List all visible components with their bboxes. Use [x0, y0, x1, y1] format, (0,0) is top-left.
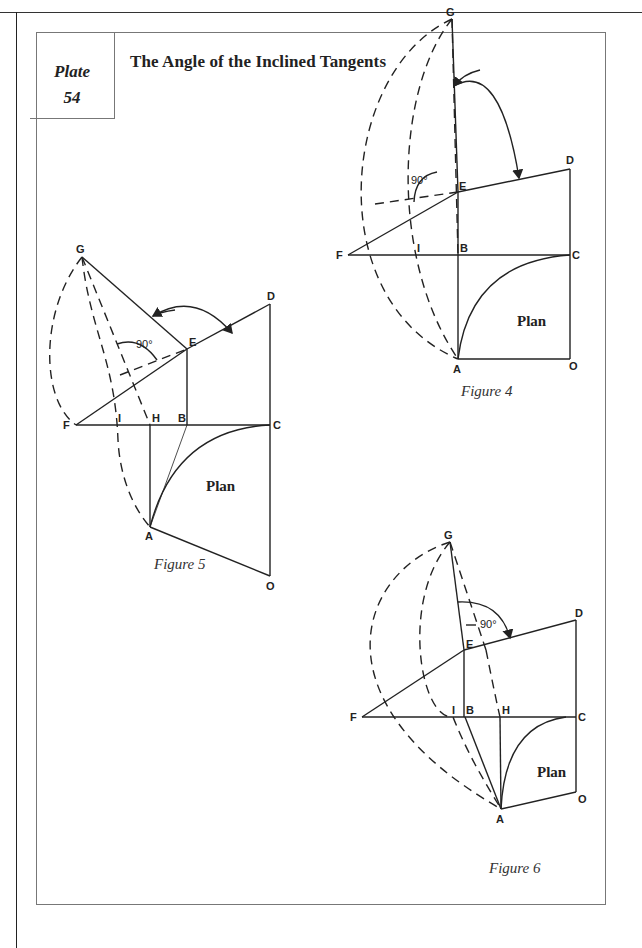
- point-label-h: H: [502, 704, 510, 716]
- point-label-o: O: [569, 360, 578, 372]
- point-label-e: E: [466, 638, 473, 650]
- point-label-f: F: [63, 419, 70, 431]
- point-label-o: O: [578, 793, 587, 805]
- point-label-g: G: [444, 529, 453, 541]
- point-label-c: C: [572, 249, 580, 261]
- angle-label: 90°: [136, 338, 153, 350]
- figure-5-labels: G E D F I H B C A O 90° Plan Figure 5: [63, 243, 281, 592]
- point-label-b: B: [466, 704, 474, 716]
- point-label-g: G: [446, 6, 455, 18]
- point-label-o: O: [266, 580, 275, 592]
- point-label-c: C: [273, 419, 281, 431]
- point-label-e: E: [459, 180, 466, 192]
- point-label-a: A: [496, 813, 504, 825]
- figure-caption: Figure 5: [153, 556, 206, 572]
- plan-label: Plan: [537, 764, 567, 780]
- point-label-a: A: [453, 363, 461, 375]
- point-label-i: I: [452, 704, 455, 716]
- point-label-i: I: [417, 242, 420, 254]
- geometry-diagram: G E D F I B C A O 90° Plan Figure 4 G E …: [0, 0, 642, 948]
- point-label-i: I: [118, 412, 121, 424]
- angle-label: 90°: [480, 618, 497, 630]
- point-label-c: C: [578, 711, 586, 723]
- plan-label: Plan: [206, 478, 236, 494]
- angle-label: 90°: [411, 174, 428, 186]
- point-label-g: G: [76, 243, 85, 255]
- point-label-e: E: [189, 336, 196, 348]
- point-label-d: D: [566, 154, 574, 166]
- point-label-f: F: [336, 249, 343, 261]
- plan-label: Plan: [517, 313, 547, 329]
- point-label-d: D: [575, 607, 583, 619]
- figure-caption: Figure 4: [460, 383, 513, 399]
- point-label-a: A: [145, 530, 153, 542]
- point-label-b: B: [460, 242, 468, 254]
- point-label-d: D: [267, 290, 275, 302]
- figure-caption: Figure 6: [488, 860, 541, 876]
- point-label-b: B: [178, 412, 186, 424]
- point-label-h: H: [152, 412, 160, 424]
- point-label-f: F: [350, 711, 357, 723]
